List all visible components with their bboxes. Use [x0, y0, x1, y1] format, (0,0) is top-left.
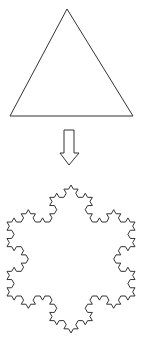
koch-snowflake-shape	[7, 185, 135, 333]
down-arrow-icon	[60, 130, 79, 165]
triangle-shape	[10, 9, 133, 116]
diagram-canvas	[0, 0, 143, 342]
